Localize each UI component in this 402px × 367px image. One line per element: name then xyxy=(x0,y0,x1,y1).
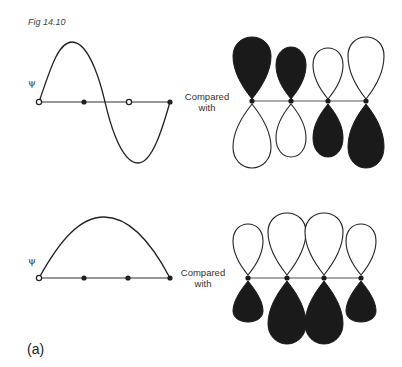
row-1-node-dot xyxy=(36,99,41,104)
lobe-open xyxy=(268,213,306,275)
with-label: with xyxy=(177,102,237,113)
lobe-open xyxy=(276,104,306,157)
lobe-filled xyxy=(346,281,376,322)
lobe-filled xyxy=(348,104,384,168)
row-2-node-dot xyxy=(125,275,130,280)
lobe-filled xyxy=(268,281,306,344)
lobe-filled xyxy=(233,37,271,99)
lobe-filled xyxy=(233,281,263,322)
panel-label: (a) xyxy=(27,341,44,357)
lobe-open xyxy=(313,48,343,99)
lobe-filled xyxy=(305,281,343,344)
with-label: with xyxy=(173,278,233,289)
row-2-node-dot xyxy=(81,275,86,280)
lobe-filled xyxy=(313,104,343,157)
row-2-node-dot xyxy=(167,275,172,280)
lobe-open xyxy=(346,224,376,275)
compared-with-label-row-1: Compared with xyxy=(177,91,237,113)
orbital-diagram xyxy=(0,0,402,367)
row-1-node-dot xyxy=(126,99,131,104)
compared-label: Compared xyxy=(173,267,233,278)
lobe-open xyxy=(233,104,271,168)
row-2-arch-curve xyxy=(39,217,170,278)
psi-label-row-2: ψ xyxy=(28,255,36,266)
row-1-orbitals xyxy=(233,37,384,168)
row-1-wavefunction xyxy=(36,42,172,163)
row-1-node-dot xyxy=(167,99,172,104)
psi-label-row-1: ψ xyxy=(28,77,36,88)
lobe-filled xyxy=(276,47,306,99)
lobe-open xyxy=(305,213,343,275)
compared-label: Compared xyxy=(177,91,237,102)
row-2-wavefunction xyxy=(36,217,172,281)
row-2-node-dot xyxy=(36,275,41,280)
lobe-open xyxy=(348,37,384,99)
row-2-orbitals xyxy=(233,213,376,344)
row-1-node-dot xyxy=(81,99,86,104)
compared-with-label-row-2: Compared with xyxy=(173,267,233,289)
lobe-open xyxy=(233,224,263,275)
